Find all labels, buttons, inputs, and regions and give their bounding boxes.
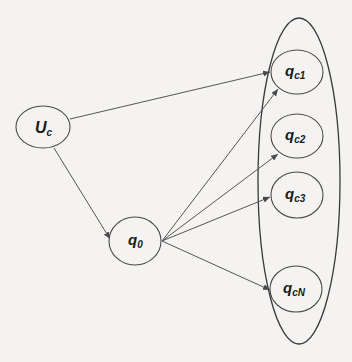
edge-q0-qcN xyxy=(162,241,270,290)
edge-uc-q0 xyxy=(54,148,110,239)
diagram-canvas: Uc q0 qc1 qc2 qc3 qcN xyxy=(0,0,352,362)
edge-q0-qc2 xyxy=(162,154,278,241)
edge-q0-qc1 xyxy=(162,89,278,241)
edge-uc-qc1 xyxy=(70,72,270,119)
graph-svg: Uc q0 qc1 qc2 qc3 qcN xyxy=(0,0,352,362)
